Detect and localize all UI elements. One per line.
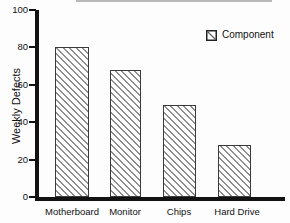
cropped-title-strip (76, 0, 272, 2)
y-tick-label-80: 80 (2, 42, 28, 52)
y-tick-80 (29, 46, 36, 48)
legend-label: Component (222, 29, 274, 41)
y-tick-label-20: 20 (2, 155, 28, 165)
bar-monitor (110, 70, 141, 197)
y-tick-40 (29, 121, 36, 123)
y-tick-0 (29, 196, 36, 198)
y-tick-label-100: 100 (2, 5, 28, 15)
y-tick-60 (29, 84, 36, 86)
y-tick-label-40: 40 (2, 117, 28, 127)
x-label-chips: Chips (167, 206, 191, 217)
y-axis-line (35, 10, 39, 200)
x-label-motherboard: Motherboard (45, 206, 99, 217)
y-tick-label-60: 60 (2, 80, 28, 90)
bar-chips (163, 105, 196, 197)
x-label-monitor: Monitor (109, 206, 141, 217)
x-axis-line (35, 197, 285, 201)
y-axis-label: Weekly Defects (10, 60, 22, 152)
bar-motherboard (55, 47, 89, 197)
y-tick-100 (29, 9, 36, 11)
y-tick-label-0: 0 (2, 192, 28, 202)
legend: Component (206, 29, 274, 41)
bar-hard-drive (218, 145, 251, 197)
legend-hatch-swatch-icon (206, 30, 217, 41)
y-tick-20 (29, 159, 36, 161)
bar-chart-canvas: Weekly Defects 100 80 60 40 20 0 Motherb… (0, 0, 290, 223)
x-label-hard-drive: Hard Drive (214, 206, 259, 217)
